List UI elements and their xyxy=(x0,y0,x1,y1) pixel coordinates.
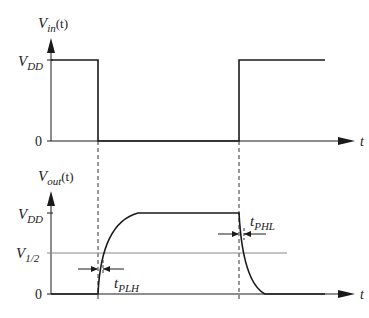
tplh-arrow-left-icon xyxy=(103,266,110,272)
vout-y-label: Vout(t) xyxy=(38,168,74,187)
vout-t-label: t xyxy=(360,287,365,302)
timing-diagram: Vin(t) VDD 0 t tPLH xyxy=(0,0,369,318)
vout-x-axis-arrow-icon xyxy=(338,290,355,298)
input-plot: Vin(t) VDD 0 t xyxy=(18,15,365,149)
vout-y-axis-arrow-icon xyxy=(47,191,55,206)
vin-vdd-label: VDD xyxy=(18,53,43,72)
tplh-label: tPLH xyxy=(114,275,140,294)
vin-y-axis-arrow-icon xyxy=(47,38,55,53)
vout-zero-label: 0 xyxy=(35,287,42,302)
vin-waveform xyxy=(51,60,325,141)
tphl-label: tPHL xyxy=(250,213,275,232)
vin-x-axis-arrow-icon xyxy=(338,137,355,145)
vout-vhalf-label: V1/2 xyxy=(16,245,40,264)
vin-zero-label: 0 xyxy=(35,134,42,149)
output-plot: tPLH tPHL Vout(t) VDD V1/2 0 t xyxy=(16,168,365,302)
vin-t-label: t xyxy=(360,134,365,149)
tphl-arrow-right-icon xyxy=(232,231,239,237)
tplh-arrow-right-icon xyxy=(91,266,98,272)
vin-y-label: Vin(t) xyxy=(38,15,68,34)
vout-vdd-label: VDD xyxy=(18,206,43,225)
tphl-arrow-left-icon xyxy=(244,231,251,237)
